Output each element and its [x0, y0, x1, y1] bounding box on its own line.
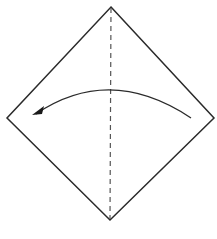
origami-diagram [0, 0, 217, 239]
